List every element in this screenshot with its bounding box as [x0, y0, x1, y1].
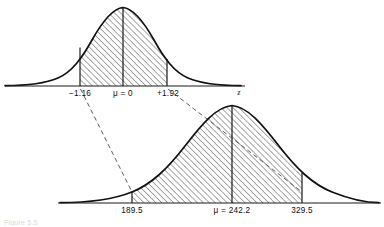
figure-caption: Figure 5.5 [4, 219, 38, 227]
lower-center-label: μ = 242.2 [214, 206, 251, 215]
figure-container: −1.16 μ = 0 +1.92 z 189.5 μ = 242.2 329.… [0, 0, 384, 226]
upper-left-tick-label: −1.16 [69, 89, 91, 98]
upper-center-label: μ = 0 [113, 89, 133, 98]
connector-left-dashed-line [81, 89, 133, 192]
upper-right-tick-label: +1.92 [157, 89, 179, 98]
lower-right-tick-label: 329.5 [291, 206, 313, 215]
lower-curve-group: 189.5 μ = 242.2 329.5 [58, 98, 381, 215]
lower-shaded-area [132, 98, 302, 203]
lower-left-tick-label: 189.5 [121, 206, 143, 215]
normal-distribution-diagram: −1.16 μ = 0 +1.92 z 189.5 μ = 242.2 329.… [0, 0, 384, 226]
upper-curve-group: −1.16 μ = 0 +1.92 z [5, 0, 245, 98]
upper-axis-variable-label: z [237, 88, 241, 97]
